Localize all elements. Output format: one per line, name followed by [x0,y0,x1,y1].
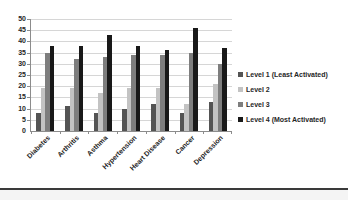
x-axis-tick [31,131,32,134]
chart-legend: Level 1 (Least Activated)Level 2Level 3L… [238,71,328,131]
y-axis-tick [27,19,30,20]
category-label: Cancer [173,134,195,156]
y-axis-tick [27,109,30,110]
y-axis-tick-label: 0 [4,127,26,135]
legend-swatch [238,117,243,122]
x-axis-tick [117,131,118,134]
legend-label: Level 2 [246,86,270,93]
chart-slide: Level 1 (Least Activated)Level 2Level 3L… [0,0,348,200]
legend-label: Level 1 (Least Activated) [246,71,328,78]
x-axis-tick [60,131,61,134]
y-axis-tick [27,41,30,42]
y-axis-tick-label: 30 [4,60,26,68]
category-label: Diabetes [26,134,52,160]
y-axis-tick-label: 35 [4,49,26,57]
legend-swatch [238,87,243,92]
category-label: Depression [192,134,224,166]
y-axis-tick [27,120,30,121]
y-axis-tick [27,75,30,76]
legend-item: Level 2 [238,86,328,93]
x-axis-tick [88,131,89,134]
bar [165,50,170,131]
bar-group [146,19,175,131]
bar [222,48,227,131]
y-axis-tick-label: 45 [4,26,26,34]
bar [136,46,141,131]
legend-swatch [238,72,243,77]
bar-group [88,19,117,131]
bar-group [203,19,232,131]
bar-group [60,19,89,131]
bar [107,35,112,131]
y-axis-tick [27,64,30,65]
y-axis-tick-label: 15 [4,93,26,101]
bar-group [31,19,60,131]
legend-label: Level 4 (Most Activated) [246,116,326,123]
bar-group [117,19,146,131]
plot-area [30,19,232,132]
legend-item: Level 3 [238,101,328,108]
y-axis-tick-label: 25 [4,71,26,79]
legend-swatch [238,102,243,107]
legend-item: Level 4 (Most Activated) [238,116,328,123]
y-axis-tick-label: 10 [4,105,26,113]
x-axis-tick [231,131,232,134]
y-axis-tick-label: 5 [4,116,26,124]
y-axis-tick [27,86,30,87]
x-axis-tick [175,131,176,134]
y-axis-tick [27,53,30,54]
y-axis-tick [27,97,30,98]
y-axis-tick-label: 40 [4,37,26,45]
x-axis-tick [146,131,147,134]
legend-item: Level 1 (Least Activated) [238,71,328,78]
bar [79,46,84,131]
category-label: Arthritis [56,134,80,158]
bar [50,46,55,131]
legend-label: Level 3 [246,101,270,108]
below-divider-area [0,190,348,200]
x-axis-tick [203,131,204,134]
bar [193,28,198,131]
y-axis-tick-label: 50 [4,15,26,23]
y-axis-tick [27,30,30,31]
bar-group [175,19,204,131]
category-label: Asthma [86,134,109,157]
y-axis-tick-label: 20 [4,82,26,90]
bar-chart: Level 1 (Least Activated)Level 2Level 3L… [0,0,348,190]
